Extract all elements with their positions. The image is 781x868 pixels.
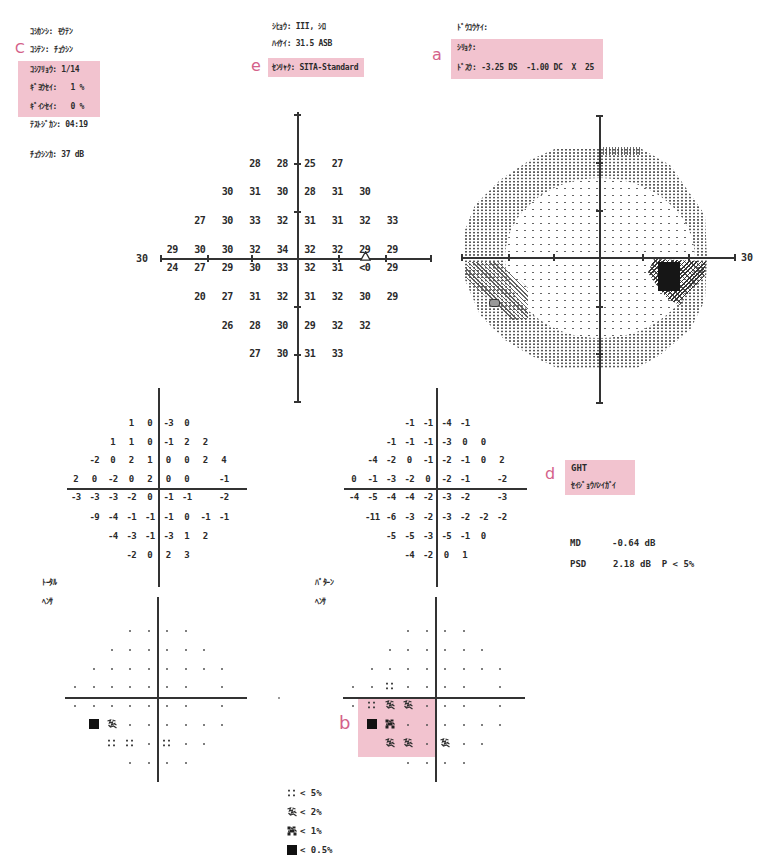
normal-dot-icon: [462, 741, 465, 746]
threshold-plot-value: 33: [249, 216, 260, 226]
pattern-deviation-value: -1: [460, 418, 470, 428]
total-deviation-value: 3: [184, 550, 189, 560]
normal-dot-icon: [221, 684, 224, 689]
threshold-plot-value: 32: [359, 216, 370, 226]
normal-dot-icon: [425, 722, 428, 727]
ght-label: GHT: [571, 463, 587, 473]
normal-dot-icon: [389, 666, 392, 671]
threshold-plot-value: 30: [222, 245, 233, 255]
total-deviation-value: 0: [147, 550, 152, 560]
total-deviation-value: -1: [145, 531, 155, 541]
pattern-deviation-value: -2: [478, 512, 488, 522]
normal-dot-icon: [166, 722, 169, 727]
normal-dot-icon: [462, 684, 465, 689]
total-deviation-value: -2: [108, 474, 118, 484]
normal-dot-icon: [129, 647, 132, 652]
legend-label: < 0.5%: [300, 845, 333, 855]
total-deviation-prob-y-axis: [157, 597, 159, 782]
axis-tick: [734, 254, 736, 261]
total-deviation-value: 2: [203, 455, 208, 465]
pattern-deviation-value: 0: [425, 474, 430, 484]
threshold-plot-value: 27: [194, 263, 205, 273]
total-deviation-x-axis: [67, 488, 247, 490]
normal-dot-icon: [481, 741, 484, 746]
pattern-deviation-value: -4: [386, 492, 396, 502]
legend-label: < 5%: [300, 788, 322, 798]
pattern-deviation-prob-y-axis: [435, 597, 437, 782]
p5-dots-icon: [126, 740, 134, 747]
pattern-deviation-value: -2: [460, 512, 470, 522]
normal-dot-icon: [407, 628, 410, 633]
total-deviation-value: -3: [126, 531, 136, 541]
total-deviation-value: 2: [129, 455, 134, 465]
pattern-deviation-y-axis: [436, 388, 438, 587]
total-deviation-value: -4: [108, 531, 118, 541]
false-positive-errors: ｷﾞﾖｳｾｲ: 1 %: [30, 83, 84, 93]
greyscale-x-axis: [461, 257, 735, 259]
axis-tick: [251, 255, 253, 262]
normal-dot-icon: [221, 666, 224, 671]
normal-dot-icon: [462, 760, 465, 765]
normal-dot-icon: [499, 703, 502, 708]
total-deviation-value: -3: [163, 418, 173, 428]
threshold-plot-value: 29: [387, 292, 398, 302]
fixation-monitor: ｺｼｶﾝｼ: ﾓｳﾃﾝ: [30, 27, 72, 37]
total-deviation-value: -1: [219, 474, 229, 484]
total-deviation-value: 0: [92, 474, 97, 484]
threshold-plot-value: 28: [277, 159, 288, 169]
axis-tick: [294, 401, 301, 403]
normal-dot-icon: [111, 703, 114, 708]
fixation-losses: ｺｼﾌﾘｮｳ: 1/14: [30, 65, 79, 75]
axis-tick: [596, 402, 603, 404]
total-deviation-value: 0: [147, 437, 152, 447]
threshold-plot-value: 32: [304, 263, 315, 273]
normal-dot-icon: [499, 666, 502, 671]
threshold-plot-value: 28: [249, 159, 260, 169]
annotation-d: d: [545, 466, 555, 482]
normal-dot-icon: [129, 684, 132, 689]
normal-dot-icon: [407, 760, 410, 765]
normal-dot-icon: [425, 760, 428, 765]
threshold-plot-value: 32: [332, 245, 343, 255]
normal-dot-icon: [184, 722, 187, 727]
normal-dot-icon: [166, 647, 169, 652]
total-deviation-value: -3: [108, 492, 118, 502]
total-deviation-value: -2: [219, 492, 229, 502]
total-deviation-value: -2: [126, 492, 136, 502]
normal-dot-icon: [444, 684, 447, 689]
fixation-target: ｺｼﾃﾝ: ﾁｭｳｼﾝ: [30, 45, 72, 55]
normal-dot-icon: [147, 722, 150, 727]
axis-tick: [294, 354, 301, 356]
normal-dot-icon: [184, 647, 187, 652]
pattern-deviation-value: -3: [497, 492, 507, 502]
normal-dot-icon: [462, 722, 465, 727]
threshold-plot-value: 25: [304, 159, 315, 169]
normal-dot-icon: [111, 666, 114, 671]
threshold-x-axis: [160, 258, 431, 260]
axis-tick: [596, 306, 603, 308]
false-negative-errors: ｷﾞｲﾝｾｲ: 0 %: [30, 102, 84, 112]
threshold-plot-value: 32: [332, 292, 343, 302]
p05-solid-square-icon: [89, 719, 99, 729]
annotation-c: C: [15, 41, 25, 55]
threshold-axis-label: 30: [136, 254, 148, 264]
pattern-deviation-value: 1: [462, 550, 467, 560]
normal-dot-icon: [370, 684, 373, 689]
normal-dot-icon: [147, 760, 150, 765]
psd-label: PSD: [570, 559, 586, 569]
normal-dot-icon: [462, 703, 465, 708]
pattern-deviation-value: -4: [441, 418, 451, 428]
pattern-deviation-prob-subtitle: ﾍﾝｻ: [315, 597, 326, 607]
normal-dot-icon: [425, 741, 428, 746]
threshold-plot-value: 33: [332, 349, 343, 359]
pattern-deviation-value: -3: [441, 492, 451, 502]
p2-pattern-icon: [403, 700, 414, 710]
normal-dot-icon: [74, 703, 77, 708]
p05-solid-square-icon: [287, 845, 297, 855]
threshold-plot-value: 29: [167, 245, 178, 255]
total-deviation-value: -1: [126, 512, 136, 522]
normal-dot-icon: [147, 684, 150, 689]
threshold-plot-value: 31: [249, 292, 260, 302]
p2-pattern-icon: [107, 719, 118, 729]
normal-dot-icon: [221, 722, 224, 727]
